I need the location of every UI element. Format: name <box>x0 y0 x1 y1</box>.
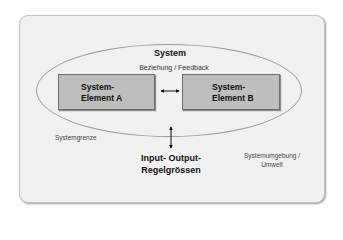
system-element-a-line1: System- <box>81 82 141 93</box>
system-boundary-label: Systemgrenze <box>55 134 97 141</box>
system-element-b-line1: System- <box>212 82 272 93</box>
input-output-label: Input- Output- Regelgrössen <box>135 152 207 176</box>
relation-feedback-label: Beziehung / Feedback <box>124 64 224 71</box>
system-element-b-line2: Element B <box>212 93 272 104</box>
input-output-line1: Input- Output- <box>135 152 207 164</box>
environment-line1: Systemumgebung / <box>232 151 312 160</box>
system-element-b-label: System- Element B <box>212 82 272 104</box>
environment-line2: Umwelt <box>232 160 312 169</box>
input-output-line2: Regelgrössen <box>135 164 207 176</box>
system-element-a-line2: Element A <box>81 93 141 104</box>
system-element-a: System- Element A <box>58 74 155 110</box>
system-element-b: System- Element B <box>182 74 280 110</box>
system-element-a-label: System- Element A <box>81 82 141 104</box>
environment-label: Systemumgebung / Umwelt <box>232 151 312 169</box>
system-title: System <box>150 48 190 58</box>
